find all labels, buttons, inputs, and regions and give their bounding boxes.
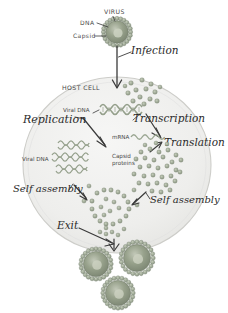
label-mrna: mRNA	[112, 134, 130, 140]
label-self-assembly-right: Self assembly	[150, 194, 220, 205]
label-capsid-proteins-line1: Capsid	[112, 153, 131, 160]
label-infection: Infection	[130, 44, 179, 56]
virus-particle-top	[101, 16, 132, 47]
label-exit: Exit	[56, 219, 79, 231]
label-viral-dna-left: Viral DNA	[22, 156, 49, 162]
label-translation: Translation	[164, 136, 225, 148]
label-dna: DNA	[80, 19, 95, 26]
label-replication: Replication	[22, 113, 86, 126]
label-capsid: Capsid	[73, 32, 96, 40]
virus-cycle-svg: VIRUS DNA Capsid Infection HOST CELL	[0, 0, 228, 313]
viral-dna-core-top	[113, 28, 122, 37]
virus-particle-released-1	[79, 247, 114, 282]
virus-particle-released-3	[101, 276, 136, 311]
diagram-canvas: VIRUS DNA Capsid Infection HOST CELL	[0, 0, 228, 313]
label-host-cell: HOST CELL	[62, 84, 100, 91]
label-virus: VIRUS	[104, 8, 125, 15]
label-transcription: Transcription	[133, 112, 205, 124]
virus-particle-released-2	[119, 240, 156, 277]
label-self-assembly-left: Self assembly	[13, 183, 83, 194]
label-capsid-proteins-line2: proteins	[112, 160, 135, 167]
